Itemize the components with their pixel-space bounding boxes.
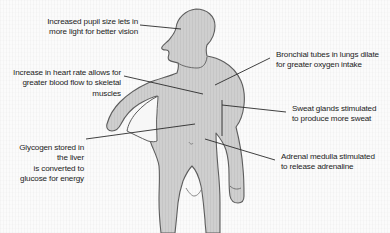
callout-adrenal-medulla: Adrenal medulla stimulated to release ad… [281,152,389,173]
callout-sweat-glands: Sweat glands stimulated to produce more … [292,104,390,125]
anatomy-diagram: Increased pupil size lets in more light … [0,0,390,233]
callout-pupil: Increased pupil size lets in more light … [14,17,138,38]
human-silhouette [107,9,245,233]
groin-line [186,188,202,196]
callout-bronchial-tubes: Bronchial tubes in lungs dilate for grea… [276,50,388,71]
callout-heart-rate: Increase in heart rate allows for greate… [4,68,121,99]
callout-glycogen: Glycogen stored in the liver is converte… [12,143,84,185]
leader-line-pupil [140,25,181,29]
body-outline-path [107,9,245,233]
